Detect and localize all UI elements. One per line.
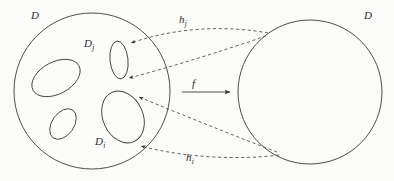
label-subdomain-j-subscript: j [92,43,94,52]
label-map-hj-subscript: j [185,19,187,28]
label-map-f: f [192,78,195,89]
label-map-hi: hi [186,152,194,166]
right-domain-disk [238,20,382,164]
label-map-hj: hj [179,14,187,28]
label-domain-left: D [31,10,39,21]
figure-container: D D Dj Di hj hi f [0,0,394,181]
map-hi-curves [139,97,279,158]
label-map-hi-subscript: i [192,157,194,166]
label-subdomain-j: Dj [84,38,94,52]
subdomain-j-shape [108,40,130,80]
label-domain-right: D [364,10,372,21]
diagram-canvas [0,0,394,181]
map-hj-curves [129,29,268,78]
label-subdomain-i-base: D [95,135,103,147]
label-subdomain-j-base: D [84,37,92,49]
label-subdomain-i: Di [95,136,105,150]
inner-blob-upper-left [26,52,87,105]
inner-blob-lower-left [44,104,82,144]
label-subdomain-i-subscript: i [103,141,105,150]
